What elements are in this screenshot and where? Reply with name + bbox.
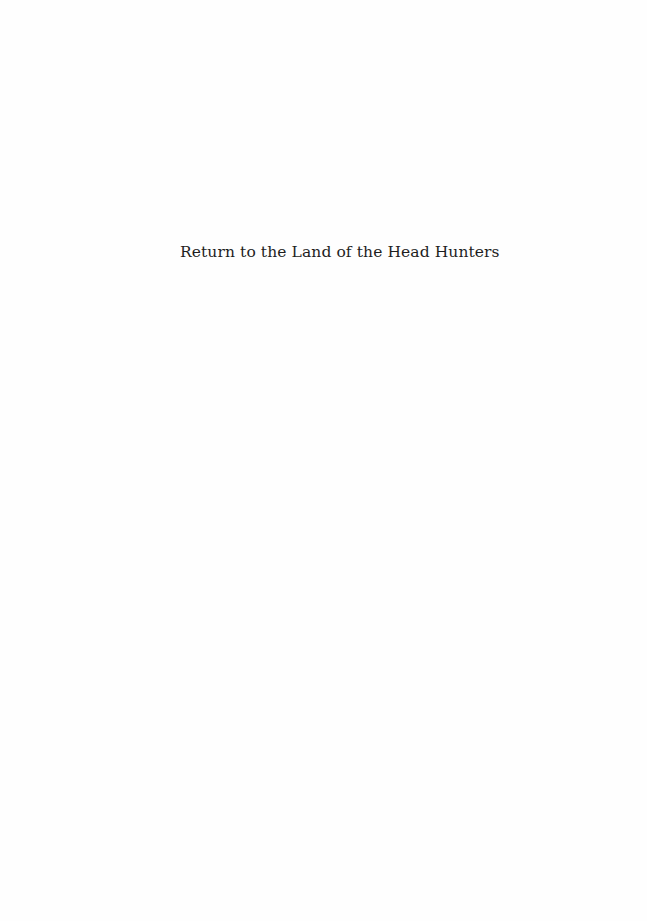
book-page: Return to the Land of the Head Hunters bbox=[0, 0, 647, 921]
half-title: Return to the Land of the Head Hunters bbox=[180, 242, 500, 262]
